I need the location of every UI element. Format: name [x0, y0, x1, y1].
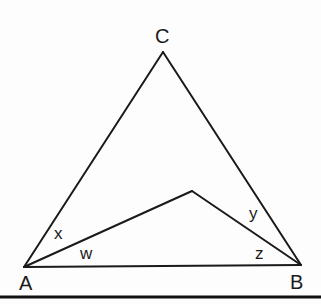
angle-label-z: z — [255, 245, 264, 262]
segment-pb — [192, 191, 301, 265]
triangle-diagram: C A B x w y z — [0, 0, 321, 304]
vertex-label-c: C — [155, 26, 169, 46]
angle-label-x: x — [54, 225, 63, 242]
side-ab — [24, 265, 301, 267]
vertex-label-b: B — [290, 272, 303, 292]
side-bc — [163, 52, 301, 265]
angle-label-w: w — [80, 245, 92, 262]
angle-label-y: y — [249, 205, 258, 222]
vertex-label-a: A — [19, 273, 32, 293]
